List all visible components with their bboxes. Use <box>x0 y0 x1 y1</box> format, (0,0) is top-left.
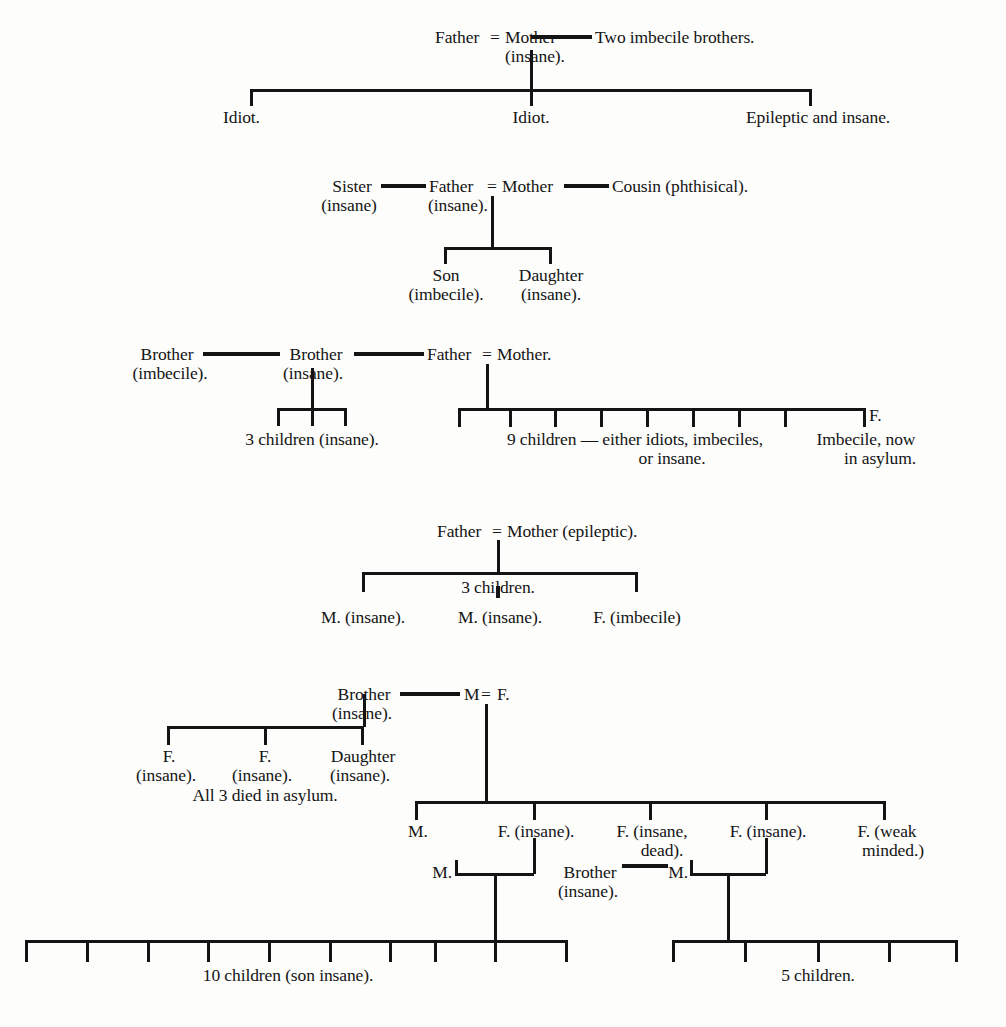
p3-father: Father <box>427 345 471 364</box>
p5-union-right-collateral-note: (insane). <box>558 882 618 901</box>
p2-father-note: (insane). <box>428 196 488 215</box>
p3-last-child-note-1: Imbecile, now <box>817 430 916 449</box>
p4-child-1: M. (insane). <box>321 608 405 627</box>
p5-male: M <box>464 685 479 704</box>
p5-female: F. <box>497 685 510 704</box>
p5-child-2: F. (insane). <box>498 822 575 841</box>
p5-union-symbol: = <box>481 685 491 704</box>
p5-collateral-child-1: F. <box>163 747 176 766</box>
p4-child-3: F. (imbecile) <box>593 608 681 627</box>
p3-right-sibship-caption-1: 9 children — either idiots, imbeciles, <box>507 430 763 449</box>
p1-mother: Mother <box>505 28 556 47</box>
p1-child-1: Idiot. <box>223 108 260 127</box>
p3-last-child-note-2: in asylum. <box>844 449 916 468</box>
p5-union-right-offspring-caption: 5 children. <box>781 966 855 985</box>
p1-child-3: Epileptic and insane. <box>746 108 890 127</box>
p3-union-symbol: = <box>482 345 492 364</box>
p5-union-right-spouse: M. <box>668 863 688 882</box>
p4-mother: Mother (epileptic). <box>507 522 637 541</box>
p1-mother-note: (insane). <box>505 47 565 66</box>
p3-last-child-marker: F. <box>869 406 882 425</box>
p2-collateral-right: Cousin (phthisical). <box>612 177 748 196</box>
p1-collateral: Two imbecile brothers. <box>595 28 754 47</box>
p5-collateral: Brother <box>338 685 391 704</box>
p2-collateral-left-note: (insane) <box>321 196 377 215</box>
p5-child-1: M. <box>408 822 428 841</box>
p2-mother: Mother <box>502 177 553 196</box>
p2-child-2-note: (insane). <box>521 285 581 304</box>
p3-collateral-2-note: (insane). <box>283 364 343 383</box>
p5-child-3-line1: F. (insane, <box>617 822 688 841</box>
p3-collateral-1: Brother <box>141 345 194 364</box>
p5-collateral-note: (insane). <box>332 704 392 723</box>
p1-child-2: Idiot. <box>513 108 550 127</box>
p3-left-sibship-caption: 3 children (insane). <box>245 430 379 449</box>
p5-collateral-child-3: Daughter <box>331 747 395 766</box>
p1-union-symbol: = <box>490 28 500 47</box>
pedigree-plate: Father = Mother (insane). Two imbecile b… <box>0 0 1006 1027</box>
p4-father: Father <box>437 522 481 541</box>
p5-union-right-collateral: Brother <box>564 863 617 882</box>
p5-collateral-child-2: F. <box>259 747 272 766</box>
p1-father: Father <box>435 28 479 47</box>
p5-child-5-line2: minded.) <box>862 841 924 860</box>
p2-union-symbol: = <box>487 177 497 196</box>
p2-child-1: Son <box>433 266 460 285</box>
p5-collateral-child-2-note: (insane). <box>232 766 292 785</box>
p2-father: Father <box>429 177 473 196</box>
p5-child-3-line2: dead). <box>641 841 684 860</box>
p2-child-1-note: (imbecile). <box>408 285 483 304</box>
p5-child-5-line1: F. (weak <box>857 822 916 841</box>
pedigree-lines <box>0 0 1006 1027</box>
p4-child-2: M. (insane). <box>458 608 542 627</box>
p3-mother: Mother. <box>497 345 551 364</box>
p4-union-symbol: = <box>492 522 502 541</box>
p2-child-2: Daughter <box>519 266 583 285</box>
p5-union-left-spouse: M. <box>432 863 452 882</box>
p5-union-left-offspring-caption: 10 children (son insane). <box>203 966 374 985</box>
p5-collateral-child-3-note: (insane). <box>330 766 390 785</box>
p3-collateral-2: Brother <box>290 345 343 364</box>
p5-child-4: F. (insane). <box>730 822 807 841</box>
p3-right-sibship-caption-2: or insane. <box>638 449 705 468</box>
p5-collateral-child-1-note: (insane). <box>136 766 196 785</box>
p5-collateral-children-footnote: All 3 died in asylum. <box>192 786 337 805</box>
p3-collateral-1-note: (imbecile). <box>132 364 207 383</box>
p2-collateral-left: Sister <box>332 177 371 196</box>
p4-sibship-caption: 3 children. <box>461 578 535 597</box>
